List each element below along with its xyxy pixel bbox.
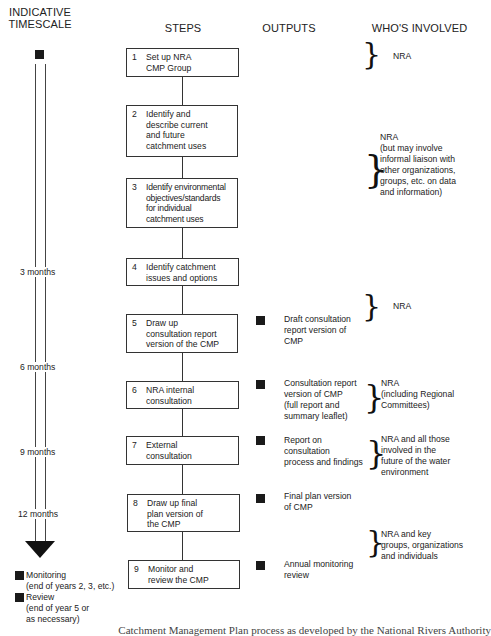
involved-step-7: NRA and all those involved in the future…: [381, 434, 450, 478]
timescale-arrowhead: [25, 541, 55, 558]
involved-steps-8-9: NRA and key groups, organizations and in…: [381, 529, 463, 562]
connector-3-4: [182, 228, 183, 258]
step-text: Draw up consultation report version of t…: [146, 318, 234, 350]
involved-steps-2-3: NRA (but may involve informal liaison wi…: [380, 132, 456, 198]
step-6-box: 6 NRA internal consultation: [126, 381, 239, 409]
header-steps: STEPS: [150, 22, 216, 34]
step-text: Identify and describe current and future…: [146, 109, 234, 151]
step-4-box: 4 Identify catchment issues and options: [126, 258, 239, 286]
step-text: Set up NRA CMP Group: [146, 52, 235, 73]
involved-step-1: NRA: [393, 51, 411, 62]
connector-8-9: [182, 532, 183, 560]
involved-step-6: NRA (including Regional Committees): [381, 378, 454, 411]
step-text: Monitor and review the CMP: [148, 564, 236, 585]
step-number: 5: [132, 318, 137, 329]
header-outputs: OUTPUTS: [254, 22, 324, 34]
connector-2-3: [182, 157, 183, 178]
output-6-text: Consultation report version of CMP (full…: [284, 378, 357, 422]
legend-review-label: Review (end of year 5 or as necessary): [26, 592, 89, 625]
timescale-mark-6-months: 6 months: [19, 362, 56, 372]
output-8-bullet: [256, 494, 265, 503]
step-number: 4: [132, 262, 137, 273]
step-3-box: 3 Identify environmental objectives/stan…: [126, 178, 238, 228]
legend-monitoring-square: [15, 571, 24, 580]
output-9-text: Annual monitoring review: [284, 559, 353, 581]
legend-monitoring-label: Monitoring (end of years 2, 3, etc.): [26, 570, 114, 592]
timescale-rail-left: [35, 64, 36, 542]
connector-4-5: [182, 286, 183, 314]
output-5-bullet: [256, 316, 265, 325]
step-number: 3: [132, 182, 137, 193]
step-number: 7: [132, 440, 137, 451]
header-whos-involved: WHO'S INVOLVED: [352, 22, 487, 34]
output-7-bullet: [256, 436, 265, 445]
step-1-box: 1 Set up NRA CMP Group: [126, 48, 239, 77]
legend-review-square: [15, 593, 24, 602]
figure-caption: Catchment Management Plan process as dev…: [0, 624, 491, 636]
step-text: Identify catchment issues and options: [146, 262, 235, 283]
involved-steps-4-5: NRA: [393, 301, 411, 312]
step-number: 6: [132, 385, 137, 396]
connector-7-8: [182, 465, 183, 494]
step-7-box: 7 External consultation: [126, 436, 239, 465]
output-5-text: Draft consultation report version of CMP: [284, 314, 351, 347]
step-text: Draw up final plan version of the CMP: [147, 498, 236, 530]
step-9-box: 9 Monitor and review the CMP: [128, 560, 240, 589]
step-text: Identify environmental objectives/standa…: [146, 182, 234, 224]
step-number: 9: [134, 564, 139, 575]
step-text: NRA internal consultation: [146, 385, 235, 406]
output-6-bullet: [256, 380, 265, 389]
connector-1-2: [182, 77, 183, 105]
timescale-mark-9-months: 9 months: [19, 447, 56, 457]
connector-6-7: [182, 409, 183, 436]
step-5-box: 5 Draw up consultation report version of…: [126, 314, 238, 353]
connector-5-6: [182, 353, 183, 381]
timescale-start-marker: [35, 50, 44, 59]
timescale-mark-3-months: 3 months: [19, 267, 56, 277]
brace-icon: }: [362, 291, 381, 321]
timescale-rail-right: [45, 64, 46, 542]
step-2-box: 2 Identify and describe current and futu…: [126, 105, 238, 157]
step-number: 8: [133, 498, 138, 509]
output-9-bullet: [256, 561, 265, 570]
timescale-mark-12-months: 12 months: [17, 509, 59, 519]
step-number: 2: [132, 109, 137, 120]
step-text: External consultation: [146, 440, 235, 461]
header-timescale: INDICATIVE TIMESCALE: [2, 6, 78, 30]
output-8-text: Final plan version of CMP: [284, 491, 351, 513]
step-8-box: 8 Draw up final plan version of the CMP: [127, 494, 240, 532]
output-7-text: Report on consultation process and findi…: [284, 435, 363, 468]
step-number: 1: [132, 52, 137, 63]
brace-icon: }: [362, 39, 381, 69]
